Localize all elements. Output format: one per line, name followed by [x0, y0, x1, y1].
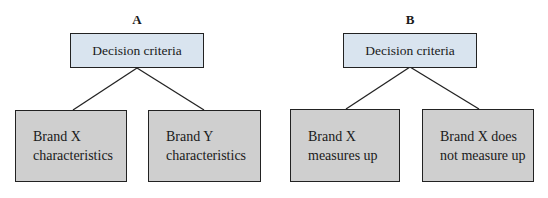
child-node-line2: characteristics — [33, 146, 113, 165]
child-node-line1: Brand Y — [166, 127, 246, 146]
connector-b-right — [410, 67, 479, 109]
diagram-b-child-node-2: Brand X does not measure up — [422, 109, 534, 182]
diagram-a-root-node: Decision criteria — [70, 33, 204, 68]
child-node-line1: Brand X — [33, 127, 113, 146]
connector-a-right — [137, 68, 204, 110]
diagram-b-root-node: Decision criteria — [343, 33, 477, 68]
connector-a-left — [73, 68, 137, 110]
child-node-line2: characteristics — [166, 146, 246, 165]
child-node-line2: measures up — [308, 146, 378, 165]
diagram-a-child-node-2: Brand Y characteristics — [148, 110, 261, 182]
diagram-b-child-node-1: Brand X measures up — [290, 109, 400, 182]
diagram-a-child-node-1: Brand X characteristics — [15, 110, 127, 182]
connector-b-left — [346, 67, 410, 109]
child-node-line1: Brand X does — [440, 127, 526, 146]
root-node-text: Decision criteria — [92, 43, 182, 59]
root-node-text: Decision criteria — [365, 43, 455, 59]
child-node-line1: Brand X — [308, 127, 378, 146]
diagram-a-label: A — [122, 12, 152, 28]
diagram-b-label: B — [395, 12, 425, 28]
child-node-line2: not measure up — [440, 146, 526, 165]
